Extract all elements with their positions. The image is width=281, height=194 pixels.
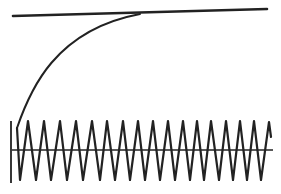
rising-curve [17,14,140,128]
diagram-canvas [0,0,281,194]
spring-diagram [0,0,281,194]
